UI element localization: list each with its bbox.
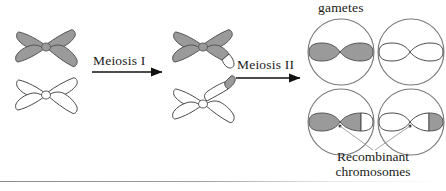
chromosome-homolog-shaded xyxy=(16,30,78,67)
gamete-cell-bottom-left xyxy=(308,89,374,155)
gametes-label: gametes xyxy=(318,1,364,16)
stage-after-meiosis-i xyxy=(173,30,236,123)
chromosome-recombinant-shaded xyxy=(173,30,234,68)
stage-after-meiosis-ii xyxy=(308,19,444,155)
gamete-cell-bottom-right xyxy=(378,89,444,155)
gamete-cell-top-right xyxy=(378,19,444,85)
gamete-cell-top-left xyxy=(308,19,374,85)
bottom-divider xyxy=(0,181,446,182)
recombinant-chromosomes-label: Recombinant chromosomes xyxy=(300,150,446,179)
stage-before-meiosis-i xyxy=(16,30,78,114)
meiosis-2-label: Meiosis II xyxy=(237,58,294,73)
chromosome-homolog-unshaded xyxy=(16,78,78,114)
chromosome-recombinant-unshaded xyxy=(173,76,236,123)
recombinant-label-line-1: Recombinant xyxy=(300,150,446,165)
recombinant-label-line-2: chromosomes xyxy=(300,165,446,180)
meiosis-1-label: Meiosis I xyxy=(93,54,145,69)
meiosis-diagram: gametes Meiosis I Meiosis II Recombinant… xyxy=(0,0,446,191)
